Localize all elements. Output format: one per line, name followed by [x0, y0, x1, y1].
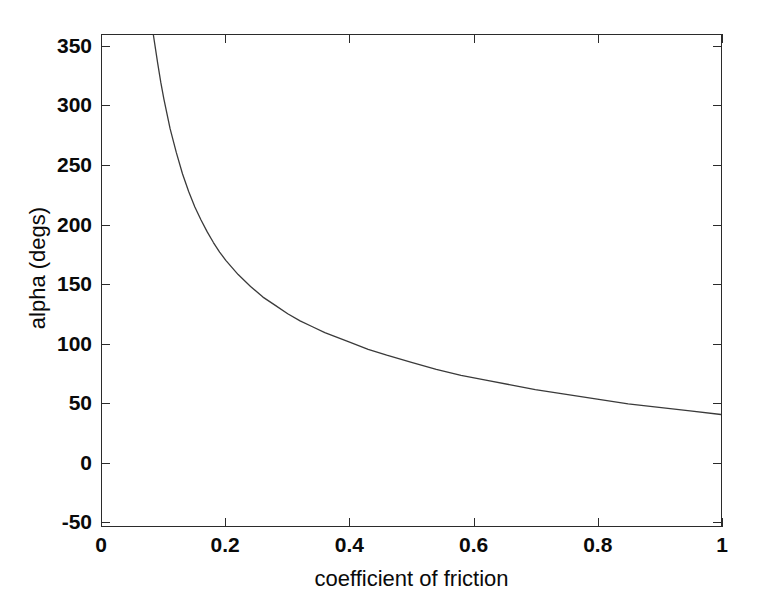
x-tick-mark	[598, 518, 599, 527]
x-tick-label: 0.8	[583, 534, 612, 555]
y-tick-label: 100	[57, 333, 92, 354]
y-tick-mark-right	[713, 344, 722, 345]
y-tick-mark	[101, 403, 110, 404]
y-tick-label: 350	[57, 35, 92, 56]
x-tick-label: 0.2	[211, 534, 240, 555]
y-tick-mark-right	[713, 165, 722, 166]
x-tick-label: 0.4	[335, 534, 364, 555]
y-tick-label: 150	[57, 273, 92, 294]
y-tick-mark	[101, 225, 110, 226]
y-tick-mark	[101, 344, 110, 345]
x-tick-mark-top	[349, 34, 350, 43]
plot-area	[101, 34, 722, 527]
y-tick-label: -50	[62, 511, 92, 532]
y-tick-mark-right	[713, 46, 722, 47]
y-tick-label: 250	[57, 154, 92, 175]
x-tick-mark-top	[722, 34, 723, 43]
x-tick-mark-top	[598, 34, 599, 43]
y-tick-label: 200	[57, 214, 92, 235]
x-tick-mark-top	[101, 34, 102, 43]
y-tick-label: 300	[57, 94, 92, 115]
x-tick-label: 0.6	[459, 534, 488, 555]
x-tick-mark	[101, 518, 102, 527]
y-tick-mark-right	[713, 463, 722, 464]
data-series-line	[153, 35, 721, 415]
x-tick-mark	[474, 518, 475, 527]
y-tick-mark-right	[713, 105, 722, 106]
y-tick-mark	[101, 284, 110, 285]
y-tick-mark-right	[713, 522, 722, 523]
y-axis-title: alpha (degs)	[25, 138, 51, 398]
x-tick-mark	[349, 518, 350, 527]
y-tick-mark	[101, 522, 110, 523]
y-tick-mark	[101, 46, 110, 47]
x-tick-mark	[722, 518, 723, 527]
y-tick-mark	[101, 105, 110, 106]
y-tick-mark	[101, 165, 110, 166]
y-tick-mark-right	[713, 225, 722, 226]
x-tick-label: 1	[716, 534, 728, 555]
y-tick-mark-right	[713, 403, 722, 404]
figure-canvas: 350300250200150100500-50 00.20.40.60.81 …	[0, 0, 758, 616]
x-axis-title: coefficient of friction	[101, 566, 722, 592]
x-tick-mark-top	[474, 34, 475, 43]
x-tick-mark	[225, 518, 226, 527]
y-tick-mark	[101, 463, 110, 464]
x-tick-mark-top	[225, 34, 226, 43]
y-tick-label: 50	[69, 392, 92, 413]
y-tick-mark-right	[713, 284, 722, 285]
y-tick-label: 0	[80, 452, 92, 473]
x-tick-label: 0	[95, 534, 107, 555]
curve-svg	[102, 35, 721, 526]
